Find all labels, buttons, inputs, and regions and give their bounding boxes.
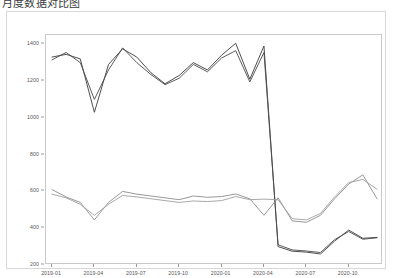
chart-plot-area: [45, 34, 382, 264]
x-tick-label: 2019-07: [116, 270, 156, 276]
x-tick-mark: [178, 264, 179, 267]
page-title-strip: 月度数据对比图: [0, 0, 394, 9]
chart-series-series-upper-a: [52, 43, 377, 254]
y-tick-label: 1000: [15, 114, 39, 120]
y-tick-mark: [41, 153, 44, 154]
x-tick-mark: [51, 264, 52, 267]
y-tick-mark: [41, 264, 44, 265]
chart-series-series-lower-a: [52, 175, 377, 222]
y-tick-label: 1400: [15, 40, 39, 46]
x-tick-label: 2020-04: [243, 270, 283, 276]
y-tick-mark: [41, 80, 44, 81]
chart-series-series-upper-b: [52, 48, 377, 253]
chart-card: 200400600800100012001400 2019-012019-042…: [6, 11, 386, 269]
x-tick-label: 2020-01: [201, 270, 241, 276]
x-tick-label: 2020-07: [285, 270, 325, 276]
y-tick-mark: [41, 116, 44, 117]
x-tick-mark: [93, 264, 94, 267]
y-tick-label: 400: [15, 224, 39, 230]
chart-series-series-lower-b: [52, 179, 377, 219]
x-tick-mark: [263, 264, 264, 267]
x-tick-mark: [136, 264, 137, 267]
page-title: 月度数据对比图: [2, 0, 80, 9]
y-tick-label: 600: [15, 187, 39, 193]
x-tick-mark: [305, 264, 306, 267]
screenshot-root: 月度数据对比图 200400600800100012001400 2019-01…: [0, 0, 394, 278]
y-tick-mark: [41, 190, 44, 191]
x-tick-mark: [348, 264, 349, 267]
chart-lines-svg: [46, 35, 383, 265]
x-tick-label: 2020-10: [328, 270, 368, 276]
y-tick-mark: [41, 43, 44, 44]
y-tick-mark: [41, 227, 44, 228]
x-tick-label: 2019-10: [158, 270, 198, 276]
x-tick-label: 2019-01: [31, 270, 71, 276]
x-tick-mark: [221, 264, 222, 267]
y-tick-label: 200: [15, 261, 39, 267]
x-tick-label: 2019-04: [73, 270, 113, 276]
y-tick-label: 1200: [15, 77, 39, 83]
y-tick-label: 800: [15, 151, 39, 157]
